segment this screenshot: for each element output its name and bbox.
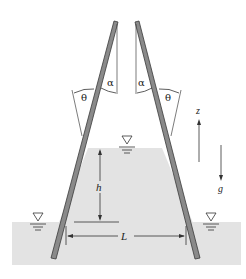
capillary-plates-diagram: α α θ θ h L bbox=[0, 0, 246, 279]
gravity-label: g bbox=[218, 183, 223, 194]
height-label: h bbox=[96, 181, 102, 193]
right-theta-line bbox=[171, 90, 181, 136]
alpha-left-label: α bbox=[107, 77, 114, 88]
theta-right-label: θ bbox=[165, 92, 171, 103]
z-axis-label: z bbox=[195, 105, 200, 116]
left-alpha-arc bbox=[101, 88, 116, 93]
gravity-arrow bbox=[219, 145, 223, 181]
separation-label: L bbox=[120, 230, 127, 242]
z-axis-arrow bbox=[197, 119, 201, 162]
right-alpha-arc bbox=[137, 88, 152, 93]
theta-left-label: θ bbox=[81, 92, 87, 103]
alpha-right-label: α bbox=[138, 77, 145, 88]
